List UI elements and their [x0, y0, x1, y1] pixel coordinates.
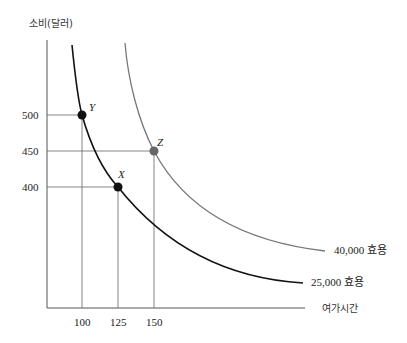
point-x-label: X — [117, 168, 126, 180]
curve-40000-label: 40,000 효용 — [334, 244, 387, 256]
y-tick-400: 400 — [22, 181, 39, 193]
y-tick-450: 450 — [22, 145, 39, 157]
x-axis-label: 여가시간 — [322, 303, 358, 314]
guide-lines — [47, 115, 154, 308]
x-tick-150: 150 — [146, 316, 163, 328]
point-y — [78, 111, 87, 120]
curve-25000-utility — [72, 45, 303, 283]
indifference-curve-chart: Y X Z 소비(달러) 500 450 400 100 125 150 여가시… — [0, 0, 407, 343]
point-x — [114, 183, 123, 192]
curve-25000-label: 25,000 효용 — [311, 276, 364, 288]
point-z-label: Z — [157, 136, 164, 148]
x-tick-125: 125 — [110, 316, 127, 328]
y-tick-500: 500 — [22, 109, 39, 121]
x-tick-100: 100 — [74, 316, 91, 328]
point-y-label: Y — [89, 101, 97, 113]
y-axis-label: 소비(달러) — [29, 18, 73, 29]
